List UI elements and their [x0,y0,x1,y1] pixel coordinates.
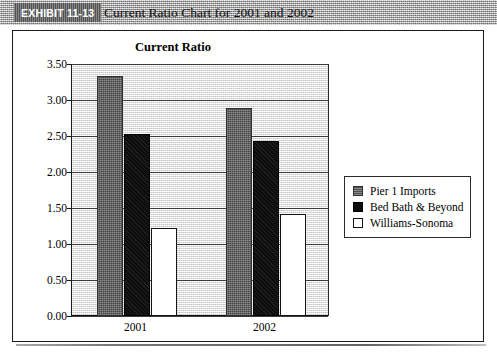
bar-bed-bath-beyond-2001 [124,134,150,316]
legend-swatch-icon [353,218,363,228]
plot-area [71,64,329,316]
chart-frame: Current Ratio 0.000.501.001.502.002.503.… [12,30,484,342]
y-axis-tick-label: 2.50 [25,130,67,142]
y-axis-tick-label: 0.00 [25,310,67,322]
y-axis-tick-label: 1.50 [25,202,67,214]
legend-swatch-icon [353,202,363,212]
exhibit-number-tab: EXHIBIT 11-13 [14,3,101,22]
bar-bed-bath-beyond-2002 [253,141,279,316]
gridline [72,64,328,65]
x-axis-tick-label: 2002 [253,321,276,333]
y-axis-tick-mark [67,280,72,281]
x-axis-tick-label: 2001 [124,321,147,333]
exhibit-header-band: EXHIBIT 11-13 Current Ratio Chart for 20… [0,0,497,25]
y-axis-tick-label: 0.50 [25,274,67,286]
exhibit-title: Current Ratio Chart for 2001 and 2002 [104,4,314,22]
chart-title: Current Ratio [13,40,333,55]
y-axis-tick-label: 2.00 [25,166,67,178]
bar-pier-1-imports-2002 [226,108,252,316]
legend-item-label: Bed Bath & Beyond [370,201,464,213]
legend-item-label: Pier 1 Imports [370,185,436,197]
y-axis-tick-label: 1.00 [25,238,67,250]
plot-area-wrapper [71,64,329,316]
y-axis: 0.000.501.001.502.002.503.003.50 [21,64,67,316]
bar-williams-sonoma-2001 [151,228,177,316]
y-axis-tick-mark [67,244,72,245]
y-axis-tick-label: 3.50 [25,58,67,70]
exhibit-number-label: EXHIBIT 11-13 [21,7,94,19]
bar-pier-1-imports-2001 [97,76,123,316]
legend-swatch-icon [353,186,363,196]
y-axis-tick-mark [67,100,72,101]
y-axis-tick-mark [67,316,72,317]
legend-item-label: Williams-Sonoma [370,217,453,229]
y-axis-tick-mark [67,172,72,173]
y-axis-tick-mark [67,64,72,65]
frame-shadow [16,344,486,346]
y-axis-tick-mark [67,208,72,209]
bar-williams-sonoma-2002 [280,214,306,316]
y-axis-tick-label: 3.00 [25,94,67,106]
y-axis-tick-mark [67,136,72,137]
x-axis: 20012002 [71,321,329,339]
gridline [72,316,328,317]
legend-item: Williams-Sonoma [353,215,463,231]
chart-legend: Pier 1 ImportsBed Bath & BeyondWilliams-… [344,176,471,238]
legend-item: Bed Bath & Beyond [353,199,463,215]
legend-item: Pier 1 Imports [353,183,463,199]
